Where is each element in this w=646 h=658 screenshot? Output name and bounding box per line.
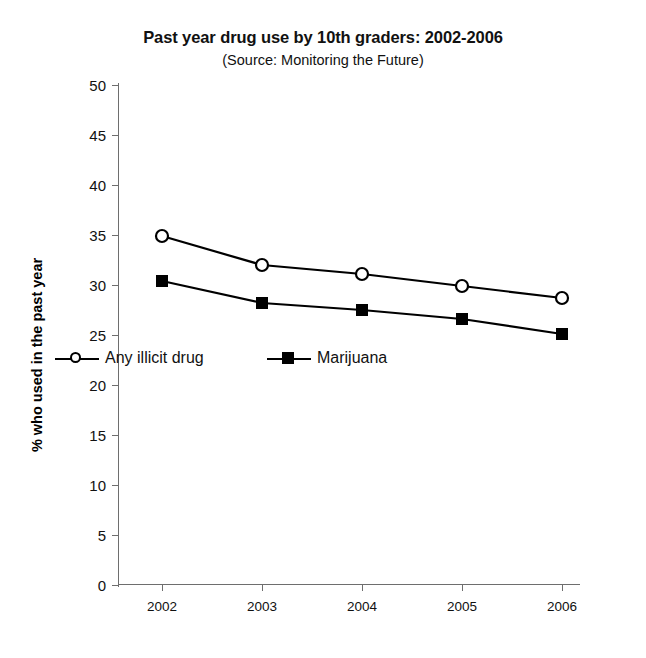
filled-square-marker-icon	[267, 347, 311, 369]
data-point-marker	[256, 259, 268, 271]
y-axis-tick-label: 50	[60, 77, 106, 94]
legend-entry-any-illicit-drug: Any illicit drug	[55, 345, 204, 371]
y-axis-tick-label: 45	[60, 127, 106, 144]
data-point-marker	[556, 328, 568, 340]
x-axis-tick-label: 2004	[347, 599, 377, 614]
x-axis-tick	[162, 585, 163, 591]
x-axis-tick-label: 2006	[547, 599, 577, 614]
series-marijuana	[156, 275, 568, 340]
y-axis-tick-label: 0	[60, 577, 106, 594]
y-axis-tick-label: 5	[60, 527, 106, 544]
y-axis-tick-label: 20	[60, 377, 106, 394]
y-axis-tick-label: 25	[60, 327, 106, 344]
open-circle-marker-icon	[55, 347, 99, 369]
y-axis-tick-label: 35	[60, 227, 106, 244]
chart-title: Past year drug use by 10th graders: 2002…	[0, 28, 646, 47]
chart-legend: Any illicit drug Marijuana	[55, 345, 455, 375]
data-point-marker	[156, 230, 168, 242]
x-axis-tick-label: 2003	[247, 599, 277, 614]
x-axis-tick-label: 2002	[147, 599, 177, 614]
y-axis-tick-label: 15	[60, 427, 106, 444]
x-axis-tick	[562, 585, 563, 591]
x-axis-tick	[462, 585, 463, 591]
y-axis-label-text: % who used in the past year	[26, 230, 48, 480]
data-point-marker	[356, 268, 368, 280]
chart-figure: Past year drug use by 10th graders: 2002…	[0, 0, 646, 658]
y-axis-tick-label: 30	[60, 277, 106, 294]
data-point-marker	[356, 304, 368, 316]
data-point-marker	[456, 280, 468, 292]
y-axis-tick-label: 10	[60, 477, 106, 494]
chart-subtitle: (Source: Monitoring the Future)	[0, 52, 646, 68]
legend-label: Marijuana	[317, 349, 387, 367]
series-layer	[118, 85, 580, 585]
legend-label: Any illicit drug	[105, 349, 204, 367]
x-axis-tick	[362, 585, 363, 591]
data-point-marker	[556, 292, 568, 304]
y-axis-tick-label: 40	[60, 177, 106, 194]
data-point-marker	[156, 275, 168, 287]
x-axis-tick	[262, 585, 263, 591]
legend-entry-marijuana: Marijuana	[267, 345, 387, 371]
data-point-marker	[456, 313, 468, 325]
plot-area: 05101520253035404550 2002200320042005200…	[118, 85, 580, 585]
x-axis-tick-label: 2005	[447, 599, 477, 614]
y-axis-tick	[112, 585, 118, 586]
y-axis-label: % who used in the past year	[26, 230, 48, 480]
data-point-marker	[256, 297, 268, 309]
